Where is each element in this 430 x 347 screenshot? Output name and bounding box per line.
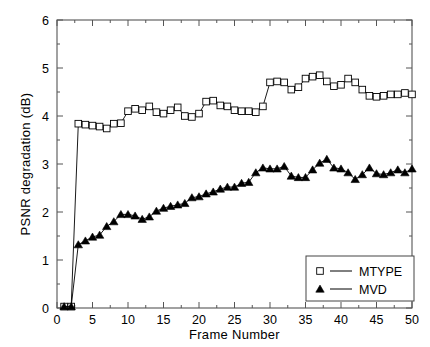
data-point: [359, 86, 366, 93]
data-point: [253, 109, 260, 116]
data-point: [365, 164, 373, 171]
data-point: [245, 108, 252, 115]
data-point: [324, 78, 331, 85]
data-point: [224, 103, 231, 110]
data-point: [408, 165, 416, 172]
data-point: [267, 79, 274, 86]
x-tick-label: 45: [370, 313, 384, 327]
data-point: [118, 120, 125, 127]
x-tick-label: 0: [54, 313, 61, 327]
x-tick-label: 50: [405, 313, 419, 327]
data-point: [387, 91, 394, 98]
x-tick-label: 15: [157, 313, 171, 327]
data-point: [373, 94, 380, 101]
data-point: [338, 82, 345, 89]
x-tick-label: 10: [121, 313, 135, 327]
legend-label: MTYPE: [359, 265, 402, 279]
data-point: [281, 79, 288, 86]
data-point: [203, 98, 210, 105]
data-point: [366, 93, 373, 100]
plot-area: 051015202530354045500123456 MTYPEMVD: [0, 0, 430, 347]
data-point: [402, 90, 409, 97]
legend-label: MVD: [359, 283, 387, 297]
data-point: [387, 169, 395, 176]
data-point: [352, 79, 359, 86]
data-point: [95, 231, 103, 238]
x-tick-label: 30: [263, 313, 277, 327]
y-tick-label: 3: [42, 158, 49, 172]
y-tick-label: 5: [42, 62, 49, 76]
data-point: [174, 104, 181, 111]
data-point: [323, 155, 331, 162]
data-point: [103, 223, 111, 230]
data-point: [395, 91, 402, 98]
data-point: [238, 108, 245, 115]
x-tick-label: 40: [334, 313, 348, 327]
data-point: [139, 107, 146, 114]
data-point: [103, 125, 110, 132]
data-point: [252, 169, 260, 176]
data-point: [217, 102, 224, 109]
data-point: [316, 72, 323, 79]
data-point: [196, 110, 203, 117]
data-point: [409, 91, 416, 98]
data-point: [96, 123, 103, 130]
data-point: [132, 106, 139, 113]
data-point: [331, 83, 338, 90]
legend-marker-square-open: [317, 268, 324, 275]
data-point: [260, 103, 267, 110]
data-point: [82, 121, 89, 128]
data-point: [182, 113, 189, 120]
data-point: [195, 193, 203, 200]
data-point: [146, 103, 153, 110]
data-point: [288, 86, 295, 93]
data-point: [345, 75, 352, 82]
data-point: [125, 108, 132, 115]
data-point: [210, 97, 217, 104]
x-tick-label: 35: [299, 313, 313, 327]
data-point: [89, 122, 96, 129]
data-point: [209, 188, 217, 195]
data-point: [231, 107, 238, 114]
x-tick-label: 5: [89, 313, 96, 327]
data-point: [111, 120, 118, 127]
data-point: [160, 110, 167, 117]
data-point: [330, 164, 338, 171]
data-point: [274, 78, 281, 85]
y-tick-label: 6: [42, 14, 49, 28]
data-point: [152, 207, 160, 214]
x-tick-label: 25: [228, 313, 242, 327]
data-point: [75, 120, 82, 127]
data-point: [287, 172, 295, 179]
data-point: [302, 75, 309, 82]
data-point: [245, 178, 253, 185]
data-point: [380, 93, 387, 100]
y-tick-label: 1: [42, 254, 49, 268]
data-point: [295, 84, 302, 91]
data-point: [153, 109, 160, 116]
y-tick-label: 2: [42, 206, 49, 220]
y-tick-label: 4: [42, 110, 49, 124]
y-tick-label: 0: [42, 302, 49, 316]
x-tick-label: 20: [192, 313, 206, 327]
data-point: [167, 107, 174, 114]
legend[interactable]: MTYPEMVD: [306, 256, 414, 301]
data-point: [280, 163, 288, 170]
data-point: [309, 73, 316, 80]
chart-figure: PSNR degradation (dB) Frame Number 05101…: [0, 0, 430, 347]
data-point: [189, 114, 196, 121]
data-point: [394, 166, 402, 173]
data-point: [259, 164, 267, 171]
